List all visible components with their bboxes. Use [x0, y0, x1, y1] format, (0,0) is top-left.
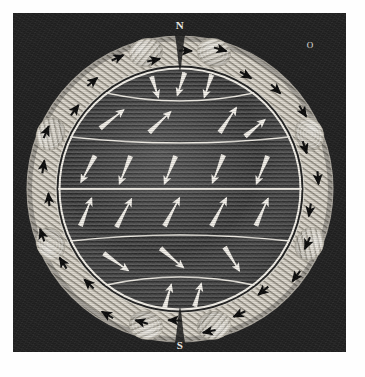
globe — [59, 68, 301, 310]
ring-name: toroidal magnet ring — [0, 0, 1, 1]
engraved-plate: N S O — [13, 13, 346, 352]
figure-caption — [0, 0, 1, 1]
diagram-svg: N S O — [13, 13, 346, 352]
figure-title: Terrestrial globe encircled by a toroida… — [0, 0, 1, 1]
ring-current-description: small black arrows indicating current ci… — [0, 0, 1, 1]
ring-current-arrow-12 — [48, 193, 49, 206]
engraving-figure: N S O Terrestrial globe encircled by a t… — [0, 0, 365, 377]
label-north-pole: N — [176, 19, 184, 31]
plate-artwork: N S O — [13, 13, 346, 352]
label-corner-mark: O — [307, 40, 314, 50]
label-south-pole: S — [177, 339, 184, 351]
ring-current-arrow-25 — [317, 171, 318, 184]
field-arrow-description: white dipole-field arrows on the globe f… — [0, 0, 1, 1]
